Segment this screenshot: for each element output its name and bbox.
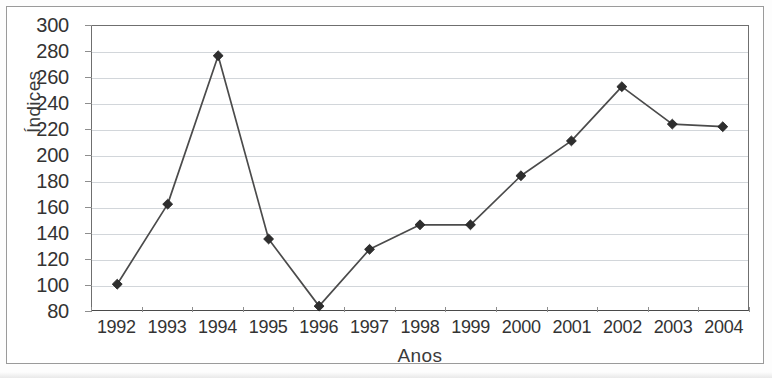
x-tick-label: 1993 bbox=[139, 317, 195, 338]
x-tick-mark bbox=[91, 307, 92, 312]
x-tick-mark bbox=[344, 307, 345, 312]
y-tick-mark bbox=[85, 25, 92, 26]
y-tick-mark bbox=[85, 181, 92, 182]
x-tick-label: 1994 bbox=[190, 317, 246, 338]
y-tick-mark bbox=[85, 207, 92, 208]
chart-figure: Índices 30028026024022020018016014012010… bbox=[0, 0, 772, 378]
x-tick-label: 1996 bbox=[291, 317, 347, 338]
y-tick-mark bbox=[85, 155, 92, 156]
x-tick-label: 1997 bbox=[341, 317, 397, 338]
x-tick-label: 1999 bbox=[443, 317, 499, 338]
figure-frame: Índices 30028026024022020018016014012010… bbox=[6, 6, 764, 364]
y-tick-label: 120 bbox=[11, 249, 69, 269]
x-axis-title: Anos bbox=[91, 345, 749, 367]
x-tick-mark bbox=[445, 307, 446, 312]
x-tick-label: 2002 bbox=[594, 317, 650, 338]
x-tick-label: 1995 bbox=[240, 317, 296, 338]
x-tick-label: 2004 bbox=[696, 317, 752, 338]
y-tick-label: 100 bbox=[11, 275, 69, 295]
x-tick-label: 1992 bbox=[88, 317, 144, 338]
y-tick-mark bbox=[85, 103, 92, 104]
y-tick-label: 240 bbox=[11, 93, 69, 113]
x-tick-mark bbox=[293, 307, 294, 312]
y-tick-label: 300 bbox=[11, 15, 69, 35]
x-tick-mark bbox=[749, 307, 750, 312]
x-tick-mark bbox=[142, 307, 143, 312]
y-tick-label: 180 bbox=[11, 171, 69, 191]
y-tick-mark bbox=[85, 285, 92, 286]
y-tick-label: 220 bbox=[11, 119, 69, 139]
series-markers bbox=[112, 51, 728, 311]
x-tick-mark bbox=[597, 307, 598, 312]
x-tick-mark bbox=[395, 307, 396, 312]
x-tick-mark bbox=[192, 307, 193, 312]
y-tick-label: 80 bbox=[11, 301, 69, 321]
y-tick-mark bbox=[85, 129, 92, 130]
data-point-marker bbox=[163, 199, 173, 209]
x-tick-mark bbox=[243, 307, 244, 312]
data-point-marker bbox=[415, 220, 425, 230]
y-tick-mark bbox=[85, 233, 92, 234]
y-tick-label: 200 bbox=[11, 145, 69, 165]
data-point-marker bbox=[213, 51, 223, 61]
x-tick-mark bbox=[547, 307, 548, 312]
x-tick-label: 1998 bbox=[392, 317, 448, 338]
y-tick-mark bbox=[85, 259, 92, 260]
x-tick-mark bbox=[496, 307, 497, 312]
y-tick-label: 160 bbox=[11, 197, 69, 217]
x-axis-ticks: 1992199319941995199619971998199920002001… bbox=[91, 313, 749, 343]
series-line bbox=[117, 56, 723, 306]
x-tick-label: 2001 bbox=[544, 317, 600, 338]
data-point-marker bbox=[718, 122, 728, 132]
scan-edge-artifact bbox=[0, 372, 772, 378]
data-series-layer bbox=[92, 26, 748, 310]
y-tick-mark bbox=[85, 77, 92, 78]
y-tick-label: 260 bbox=[11, 67, 69, 87]
x-tick-mark bbox=[698, 307, 699, 312]
y-tick-mark bbox=[85, 51, 92, 52]
x-tick-mark bbox=[648, 307, 649, 312]
data-point-marker bbox=[112, 279, 122, 289]
x-tick-label: 2000 bbox=[493, 317, 549, 338]
y-tick-label: 140 bbox=[11, 223, 69, 243]
y-tick-label: 280 bbox=[11, 41, 69, 61]
plot-area bbox=[91, 25, 749, 311]
x-tick-label: 2003 bbox=[645, 317, 701, 338]
